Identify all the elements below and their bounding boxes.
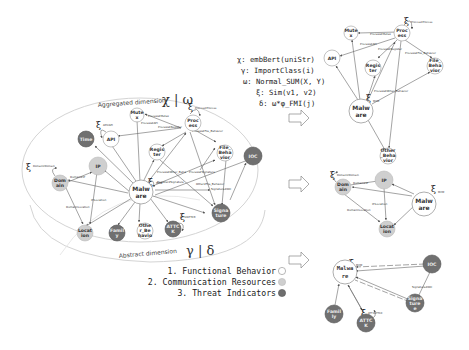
node-api[interactable]: API bbox=[103, 131, 119, 147]
node-ioc[interactable]: IOC bbox=[244, 147, 262, 165]
node-location[interactable]: Locat ion bbox=[77, 225, 93, 241]
node-time[interactable]: Time bbox=[78, 131, 94, 147]
svg-text:Process2Signature: Process2Signature bbox=[189, 170, 215, 174]
formula-block: χ: embBert(uniStr) γ: ImportClass(i) ω: … bbox=[237, 55, 325, 108]
svg-text:API: API bbox=[107, 137, 116, 142]
svg-text:2. Communication Resources: 2. Communication Resources bbox=[148, 277, 276, 287]
svg-text:DomainILocation: DomainILocation bbox=[347, 208, 371, 212]
node-attck[interactable]: ATTC K bbox=[165, 221, 181, 237]
svg-text:χ: embBert(uniStr): χ: embBert(uniStr) bbox=[237, 55, 315, 64]
svg-text:Domain2IP: Domain2IP bbox=[70, 175, 85, 179]
sub2-node-location[interactable]: Location bbox=[379, 221, 395, 237]
svg-text:3. Threat Indicators: 3. Threat Indicators bbox=[177, 288, 276, 298]
arrow-right-icon bbox=[289, 252, 309, 268]
svg-text:Signature2IOC: Signature2IOC bbox=[412, 285, 432, 289]
svg-text:M2M: M2M bbox=[156, 182, 162, 185]
svg-text:ter: ter bbox=[369, 68, 377, 73]
svg-text:Signature2IOC: Signature2IOC bbox=[211, 187, 231, 191]
svg-text:vior: vior bbox=[430, 68, 441, 73]
svg-text:Process2Other_Behavior: Process2Other_Behavior bbox=[374, 89, 409, 93]
svg-text:y: y bbox=[116, 233, 119, 238]
legend-swatch-darkgray-icon bbox=[278, 289, 285, 296]
sub1-node-process[interactable]: Process bbox=[394, 25, 410, 41]
legend-item-threat: 3. Threat Indicators bbox=[177, 288, 285, 298]
sub1-node-api[interactable]: API bbox=[324, 50, 340, 66]
svg-text:Malw: Malw bbox=[132, 185, 150, 192]
node-process[interactable]: Proc ess bbox=[185, 115, 201, 131]
svg-text:Domain2Domain: Domain2Domain bbox=[337, 174, 359, 177]
legend-item-communication: 2. Communication Resources bbox=[148, 277, 286, 287]
svg-text:Malw: Malw bbox=[415, 197, 433, 204]
svg-text:ξ: Sim(v1, v2): ξ: Sim(v1, v2) bbox=[256, 88, 317, 97]
sub1-node-mutex[interactable]: Mutex bbox=[344, 26, 358, 40]
svg-text:Process2File_Behavior: Process2File_Behavior bbox=[405, 51, 437, 55]
svg-text:ion: ion bbox=[383, 229, 391, 234]
svg-text:ξ: ξ bbox=[431, 184, 436, 194]
subgraph-communication: ξDomain2Domain ξM2M Domain2IP IPILocatio… bbox=[330, 170, 444, 237]
svg-text:ter: ter bbox=[153, 152, 161, 157]
sub3-node-signature[interactable]: Signaturee bbox=[406, 294, 424, 312]
svg-text:IPILocation: IPILocation bbox=[372, 202, 387, 206]
svg-text:Process2API: Process2API bbox=[141, 121, 158, 125]
sub3-node-ioc[interactable]: IOC bbox=[423, 255, 441, 273]
sub2-node-malware[interactable]: Malware bbox=[412, 192, 436, 216]
svg-text:ξ: ξ bbox=[404, 16, 409, 26]
svg-text:Process2API: Process2API bbox=[360, 42, 377, 46]
node-family[interactable]: Famil y bbox=[109, 225, 125, 241]
abstract-dimension-symbol: γ | δ bbox=[186, 243, 214, 258]
svg-text:ATT2ATTCK: ATT2ATTCK bbox=[368, 312, 383, 315]
svg-text:ξ: ξ bbox=[180, 212, 185, 222]
node-malware[interactable]: Malw are bbox=[129, 180, 153, 204]
svg-text:ain: ain bbox=[339, 187, 347, 192]
aggregated-dimension-label: Aggregated dimension bbox=[98, 96, 167, 109]
svg-text:IP: IP bbox=[381, 178, 387, 183]
svg-text:API: API bbox=[328, 56, 337, 61]
svg-text:havio: havio bbox=[138, 233, 152, 238]
svg-text:Process2Mutex: Process2Mutex bbox=[370, 32, 391, 36]
svg-text:x: x bbox=[350, 33, 353, 38]
node-domain[interactable]: Dom ain bbox=[52, 175, 68, 191]
svg-text:are: are bbox=[418, 204, 429, 211]
svg-text:M2M: M2M bbox=[373, 100, 379, 103]
sub1-node-register[interactable]: Register bbox=[365, 60, 381, 76]
svg-text:API2API: API2API bbox=[103, 124, 113, 127]
svg-text:M2M: M2M bbox=[356, 264, 362, 267]
abstract-dimension-label-visible: Abstract dimension bbox=[118, 247, 177, 259]
sub1-node-file-behavior[interactable]: File_Behavior bbox=[427, 58, 443, 74]
svg-text:vior: vior bbox=[220, 155, 231, 160]
node-signature[interactable]: Signa ture bbox=[212, 204, 230, 222]
arrow-right-icon bbox=[289, 110, 309, 126]
sub2-node-domain[interactable]: Domain bbox=[335, 179, 351, 195]
subgraph-functional: ξProcess2Process ξM2M Process2Mutex Proc… bbox=[324, 16, 443, 164]
svg-text:ξ: ξ bbox=[26, 162, 31, 172]
svg-text:Malwa: Malwa bbox=[337, 265, 354, 271]
sub1-node-other-behavior[interactable]: Other_Behavior bbox=[380, 148, 396, 164]
svg-text:Process2Mutex: Process2Mutex bbox=[148, 114, 169, 118]
node-mutex[interactable]: Mute x bbox=[130, 108, 144, 122]
svg-text:ess: ess bbox=[398, 33, 407, 38]
svg-text:K: K bbox=[364, 323, 368, 328]
main-graph: Aggregated dimension χ | ω Abstract dime… bbox=[20, 92, 265, 262]
node-ip[interactable]: IP bbox=[89, 157, 107, 175]
svg-text:re: re bbox=[342, 273, 349, 279]
svg-text:Malw: Malw bbox=[352, 104, 370, 111]
svg-text:IOC: IOC bbox=[428, 262, 438, 267]
sub3-node-attck[interactable]: ATTCK bbox=[357, 314, 375, 332]
sub3-node-family[interactable]: Familly bbox=[325, 305, 343, 323]
svg-text:Process2Other_Beha: Process2Other_Beha bbox=[157, 170, 186, 174]
svg-text:ion: ion bbox=[81, 233, 89, 238]
sub1-node-malware[interactable]: Malware bbox=[349, 99, 373, 123]
node-file-behavior[interactable]: File_ Beha vior bbox=[217, 145, 233, 161]
node-other-behavior[interactable]: Othe r_Be havio bbox=[137, 223, 153, 239]
svg-text:Time: Time bbox=[80, 137, 93, 142]
legend: 1. Functional Behavior 2. Communication … bbox=[148, 266, 286, 298]
legend-swatch-white-icon bbox=[278, 267, 285, 274]
sub2-node-ip[interactable]: IP bbox=[375, 171, 393, 189]
svg-text:IOC: IOC bbox=[249, 154, 259, 159]
node-register[interactable]: Regis ter bbox=[149, 144, 165, 160]
svg-text:are: are bbox=[135, 192, 146, 199]
sub3-node-malware[interactable]: Malware bbox=[333, 260, 357, 284]
svg-text:are: are bbox=[355, 111, 366, 118]
legend-swatch-lightgray-icon bbox=[278, 278, 285, 285]
svg-text:ω: Normal_SUM(X, Y): ω: Normal_SUM(X, Y) bbox=[243, 77, 325, 86]
